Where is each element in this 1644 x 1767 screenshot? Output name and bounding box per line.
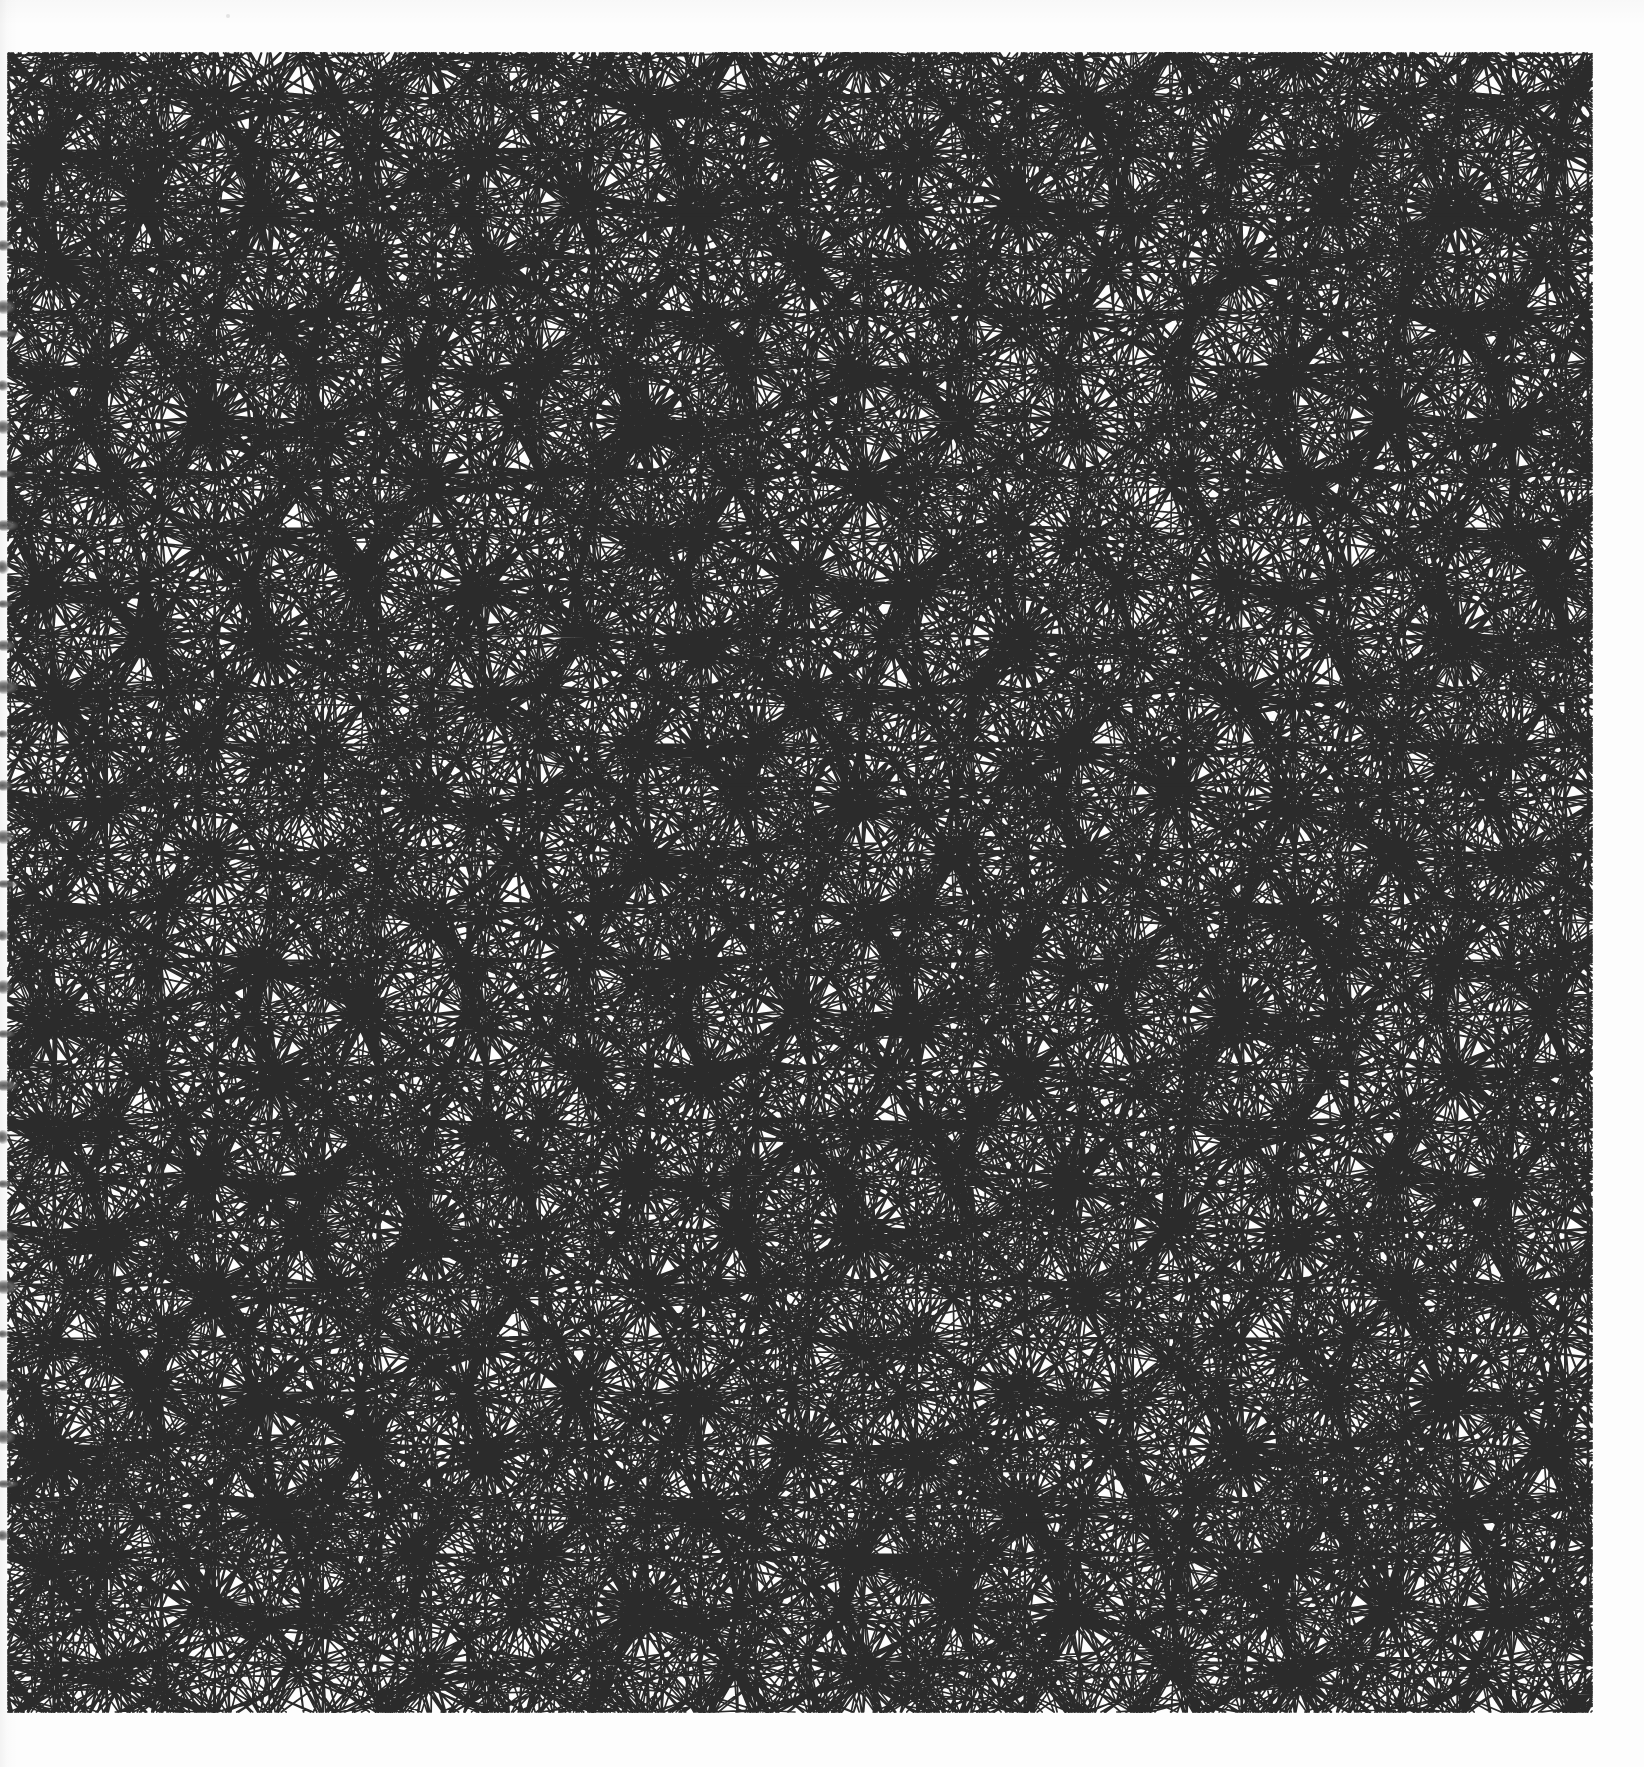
binding-mark — [0, 600, 12, 608]
binding-mark — [0, 520, 18, 531]
binding-mark — [0, 560, 9, 574]
binding-mark — [0, 1080, 18, 1091]
binding-mark — [0, 1530, 9, 1541]
binding-mark — [0, 1030, 15, 1038]
scan-speck — [226, 14, 230, 18]
tiling-lines — [8, 53, 1592, 1712]
binding-mark — [0, 240, 12, 251]
binding-mark — [0, 470, 15, 478]
binding-mark — [0, 1480, 18, 1488]
binding-mark — [0, 330, 18, 338]
binding-mark — [0, 780, 12, 791]
binding-mark — [0, 680, 18, 694]
binding-mark — [0, 380, 9, 391]
binding-mark — [0, 930, 9, 941]
binding-mark — [0, 1430, 15, 1444]
binding-mark — [0, 830, 15, 844]
binding-mark — [0, 420, 12, 434]
binding-mark — [0, 200, 9, 208]
scanned-page: Quasi-periodic girih tiling study — [0, 0, 1644, 1767]
binding-mark — [0, 1280, 18, 1294]
binding-mark — [0, 1330, 9, 1338]
binding-mark — [0, 300, 15, 314]
binding-mark — [0, 730, 9, 738]
binding-mark — [0, 1130, 9, 1144]
binding-mark — [0, 1230, 15, 1241]
binding-mark — [0, 1180, 12, 1188]
binding-shadow — [0, 0, 22, 1767]
binding-mark — [0, 980, 12, 994]
binding-mark — [0, 1380, 12, 1391]
binding-mark — [0, 640, 15, 651]
binding-mark — [0, 880, 18, 888]
tiling-drawing — [0, 0, 1644, 1767]
scan-speck — [1014, 75, 1017, 78]
